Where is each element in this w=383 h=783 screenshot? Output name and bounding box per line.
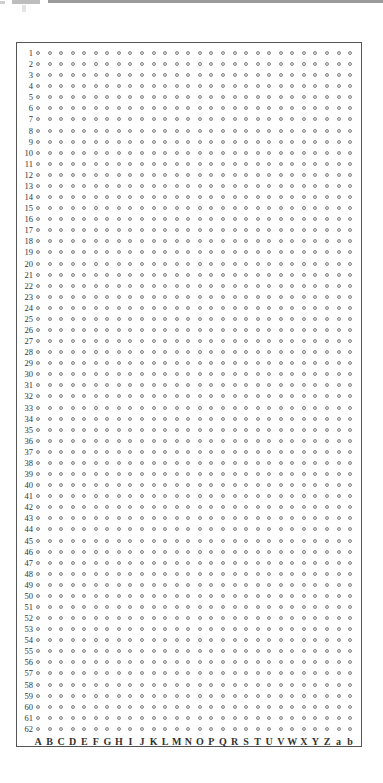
column-labels: ABCDEFGHIJKLMNOPQRSTUVWXYZab [17, 736, 361, 748]
grid-dot [244, 505, 248, 509]
grid-dot [198, 594, 202, 598]
grid-dot [290, 527, 294, 531]
grid-dot [82, 494, 86, 498]
grid-dot [244, 84, 248, 88]
grid-dot [36, 117, 40, 121]
grid-dot [82, 483, 86, 487]
grid-dot [186, 350, 190, 354]
grid-dot [290, 339, 294, 343]
grid-dot [325, 361, 329, 365]
grid-dot [302, 450, 306, 454]
grid-dot [105, 494, 109, 498]
grid-dot [209, 51, 213, 55]
grid-dot [48, 317, 52, 321]
grid-dot [302, 372, 306, 376]
grid-dot [256, 239, 260, 243]
grid-dot [48, 350, 52, 354]
grid-dot [325, 727, 329, 731]
grid-dot [267, 660, 271, 664]
grid-dot [152, 73, 156, 77]
grid-dot [186, 649, 190, 653]
grid-dot [163, 383, 167, 387]
grid-dot [325, 671, 329, 675]
grid-dot [94, 705, 98, 709]
grid-dot [244, 417, 248, 421]
grid-dot [313, 483, 317, 487]
grid-dot [94, 483, 98, 487]
grid-dot [290, 394, 294, 398]
grid-dot [302, 228, 306, 232]
grid-dot [175, 583, 179, 587]
grid-dot [175, 372, 179, 376]
grid-dot [94, 117, 98, 121]
row-label: 51 [17, 602, 33, 613]
grid-dot [337, 62, 341, 66]
grid-dot [186, 572, 190, 576]
grid-dot [313, 550, 317, 554]
grid-dot [94, 262, 98, 266]
grid-dot [267, 638, 271, 642]
grid-dot [244, 317, 248, 321]
grid-dot [48, 694, 52, 698]
grid-dot [82, 705, 86, 709]
grid-dot [71, 84, 75, 88]
grid-dot [348, 572, 352, 576]
grid-dot [244, 328, 248, 332]
grid-dot [302, 184, 306, 188]
grid-dot [279, 461, 283, 465]
grid-dot [117, 516, 121, 520]
grid-dot [244, 550, 248, 554]
grid-dot [244, 428, 248, 432]
row-label: 31 [17, 380, 33, 391]
grid-dot [267, 483, 271, 487]
grid-dot [221, 95, 225, 99]
row-label: 52 [17, 613, 33, 624]
grid-dot [175, 217, 179, 221]
grid-dot [279, 627, 283, 631]
grid-dot [82, 638, 86, 642]
grid-dot [36, 561, 40, 565]
grid-dot [128, 417, 132, 421]
grid-dot [152, 217, 156, 221]
grid-dot [198, 372, 202, 376]
grid-dot [140, 51, 144, 55]
grid-dot [325, 339, 329, 343]
grid-dot [128, 140, 132, 144]
grid-dot [290, 284, 294, 288]
grid-dot [152, 494, 156, 498]
grid-dot [36, 306, 40, 310]
grid-dot [71, 140, 75, 144]
grid-dot [163, 350, 167, 354]
grid-dot [267, 140, 271, 144]
grid-row: 27 [17, 336, 361, 347]
grid-dot [267, 683, 271, 687]
grid-dot [325, 162, 329, 166]
grid-dot [279, 705, 283, 709]
grid-dot [48, 483, 52, 487]
grid-dot [290, 483, 294, 487]
grid-dot [36, 228, 40, 232]
grid-dot [36, 694, 40, 698]
row-label: 39 [17, 469, 33, 480]
grid-dot [36, 683, 40, 687]
grid-dot [313, 472, 317, 476]
grid-dot [267, 616, 271, 620]
grid-dot [337, 660, 341, 664]
grid-dot [209, 95, 213, 99]
grid-dot [209, 217, 213, 221]
grid-dot [94, 162, 98, 166]
row-label: 57 [17, 668, 33, 679]
grid-dot [267, 671, 271, 675]
grid-dot [175, 361, 179, 365]
column-label: R [229, 736, 241, 748]
grid-dot [128, 239, 132, 243]
grid-dot [82, 73, 86, 77]
grid-dot [71, 483, 75, 487]
grid-dot [279, 95, 283, 99]
grid-dot [256, 228, 260, 232]
grid-dot [325, 273, 329, 277]
grid-dot [267, 350, 271, 354]
grid-dot [71, 439, 75, 443]
grid-dot [152, 638, 156, 642]
row-label: 8 [17, 126, 33, 137]
